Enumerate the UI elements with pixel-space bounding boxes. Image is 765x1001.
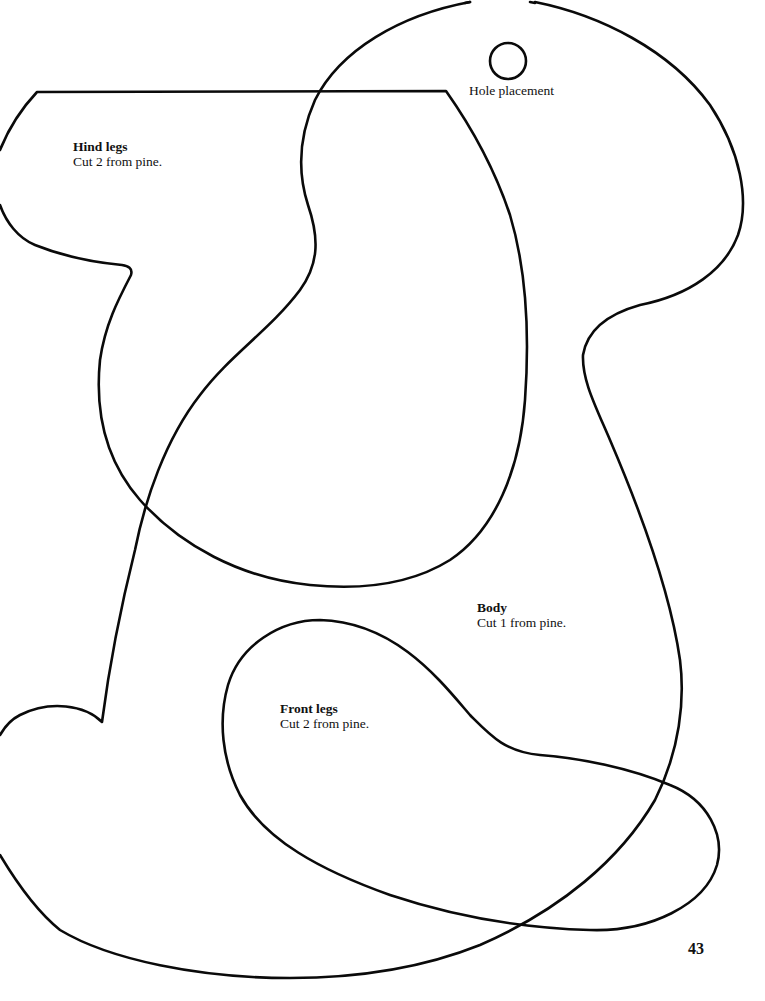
body-outline — [0, 2, 470, 735]
front-legs-label: Front legs Cut 2 from pine. — [280, 701, 369, 731]
body-outline-topgap-right — [530, 2, 535, 3]
body-instruction: Cut 1 from pine. — [477, 615, 566, 630]
front-legs-outline — [223, 620, 719, 930]
page-number: 43 — [688, 940, 704, 958]
hind-legs-label: Hind legs Cut 2 from pine. — [73, 139, 162, 169]
hole-placement-circle-icon — [490, 43, 526, 79]
front-legs-title: Front legs — [280, 701, 369, 716]
front-legs-instruction: Cut 2 from pine. — [280, 716, 369, 731]
body-outline-topgap — [465, 2, 470, 3]
body-label: Body Cut 1 from pine. — [477, 600, 566, 630]
hole-placement-label: Hole placement — [469, 83, 554, 99]
hind-legs-title: Hind legs — [73, 139, 162, 154]
body-title: Body — [477, 600, 566, 615]
hind-legs-instruction: Cut 2 from pine. — [73, 154, 162, 169]
